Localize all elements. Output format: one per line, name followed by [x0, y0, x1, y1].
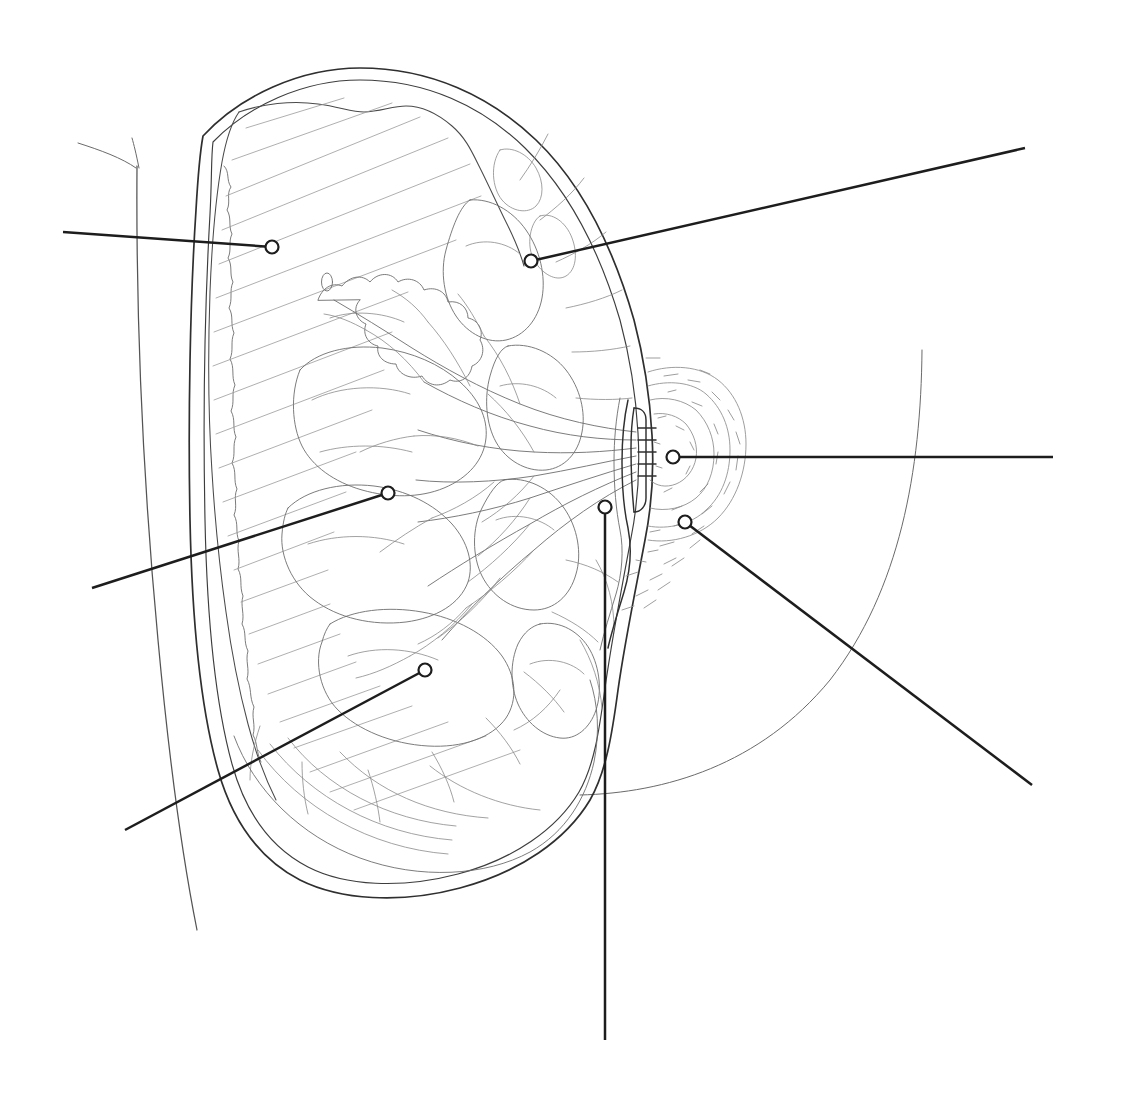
breast-sagittal-section-illustration — [0, 0, 1142, 1117]
callout-dot-areola[interactable] — [679, 516, 692, 529]
callout-dot-pectoralis[interactable] — [266, 241, 279, 254]
canvas-background — [0, 0, 1142, 1117]
callout-dot-lactiferous-sinus[interactable] — [599, 501, 612, 514]
callout-dot-lobule-lower[interactable] — [419, 664, 432, 677]
callout-dot-glandular-lobe[interactable] — [382, 487, 395, 500]
callout-dot-nipple[interactable] — [667, 451, 680, 464]
figure-root: Sagittal Section of the Female Breast Un… — [0, 0, 1142, 1117]
callout-dot-adipose-upper[interactable] — [525, 255, 538, 268]
